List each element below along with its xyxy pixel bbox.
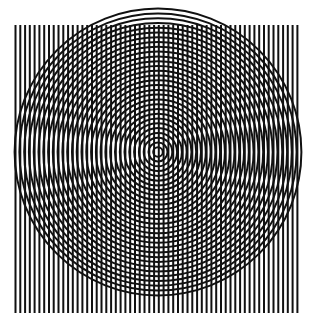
artwork-svg <box>0 0 315 336</box>
moire-artwork-canvas <box>0 0 315 336</box>
